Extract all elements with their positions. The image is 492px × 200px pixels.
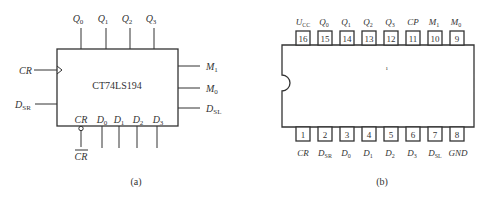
svg-text:CR: CR	[297, 148, 309, 158]
svg-text:13: 13	[365, 34, 375, 44]
svg-text:2: 2	[323, 130, 328, 140]
svg-text:DSR: DSR	[317, 148, 332, 159]
svg-text:CR: CR	[19, 65, 32, 76]
inversion-bubble-icon	[79, 126, 83, 130]
bottom-pin-1: 1 CR	[296, 127, 310, 158]
caption-b: (b)	[376, 176, 388, 188]
svg-text:Q1: Q1	[98, 13, 109, 26]
svg-text:CP: CP	[407, 17, 419, 27]
svg-text:D2: D2	[384, 148, 395, 159]
svg-text:12: 12	[387, 34, 396, 44]
right-pin-dsl: DSL	[178, 103, 221, 116]
bottom-pin-4: 4 D1	[362, 127, 376, 159]
svg-text:9: 9	[455, 34, 460, 44]
dip-package-body	[282, 45, 474, 127]
svg-text:Q3: Q3	[385, 17, 395, 28]
svg-text:UCC: UCC	[296, 17, 311, 28]
svg-text:DSR: DSR	[14, 99, 31, 112]
svg-text:11: 11	[409, 34, 418, 44]
bottom-pin-cr-inverted: CR	[75, 126, 88, 162]
bottom-pin-7: 7 DSL	[427, 127, 442, 159]
svg-text:DSL: DSL	[427, 148, 442, 159]
figure-a-logic-symbol: CT74LS194 Q0 Q1 Q2 Q3 CR DSR	[14, 13, 221, 188]
svg-text:Q3: Q3	[146, 13, 157, 26]
top-pin-12: 12 Q3	[384, 17, 398, 45]
top-pin-15: 15 Q0	[318, 17, 332, 45]
top-pin-q3: Q3	[146, 13, 157, 49]
svg-text:DSL: DSL	[205, 103, 221, 116]
top-pin-q2: Q2	[122, 13, 133, 49]
svg-text:4: 4	[367, 130, 372, 140]
svg-text:D0: D0	[340, 148, 351, 159]
svg-text:Q0: Q0	[319, 17, 329, 28]
svg-text:GND: GND	[448, 148, 468, 158]
top-pin-11: 11 CP	[406, 17, 420, 45]
svg-text:15: 15	[321, 34, 331, 44]
svg-text:Q2: Q2	[122, 13, 133, 26]
top-pin-10: 10 M1	[428, 17, 442, 45]
left-pin-cr-clock: CR	[19, 65, 62, 76]
bottom-pin-3: 3 D0	[340, 127, 354, 159]
bottom-pin-8: 8 GND	[448, 127, 468, 158]
svg-text:7: 7	[433, 130, 438, 140]
svg-text:M1: M1	[205, 61, 218, 74]
svg-text:3: 3	[345, 130, 350, 140]
svg-text:10: 10	[431, 34, 441, 44]
svg-text:1: 1	[301, 130, 306, 140]
top-pin-q1: Q1	[98, 13, 109, 49]
top-pin-16: 16 UCC	[296, 17, 311, 45]
top-pin-14: 14 Q1	[340, 17, 354, 45]
figure-b-pinout: ı 16 UCC 15 Q0 14 Q1 13 Q2 12 Q3	[282, 17, 474, 188]
top-pin-9: 9 M0	[450, 17, 464, 45]
svg-text:M1: M1	[428, 17, 440, 28]
bottom-pin-6: 6 D3	[406, 127, 420, 159]
svg-text:M0: M0	[450, 17, 462, 28]
svg-text:14: 14	[343, 34, 353, 44]
caption-a: (a)	[130, 176, 141, 188]
bottom-pin-2: 2 DSR	[317, 127, 332, 159]
svg-text:CR: CR	[75, 151, 88, 162]
svg-text:6: 6	[411, 130, 416, 140]
chip-label: CT74LS194	[92, 80, 141, 91]
left-pin-dsr: DSR	[14, 99, 57, 112]
right-pin-m1: M1	[178, 61, 218, 74]
diagram-canvas: CT74LS194 Q0 Q1 Q2 Q3 CR DSR	[0, 0, 492, 200]
svg-text:5: 5	[389, 130, 394, 140]
svg-text:Q0: Q0	[73, 13, 84, 26]
right-pin-m0: M0	[178, 83, 218, 96]
svg-text:Q1: Q1	[341, 17, 351, 28]
top-pin-13: 13 Q2	[362, 17, 376, 45]
bottom-pin-5: 5 D2	[384, 127, 398, 159]
svg-text:16: 16	[299, 34, 309, 44]
svg-text:Q2: Q2	[363, 17, 373, 28]
svg-text:M0: M0	[205, 83, 218, 96]
top-pin-q0: Q0	[73, 13, 84, 49]
svg-text:D1: D1	[362, 148, 373, 159]
svg-text:8: 8	[455, 130, 460, 140]
svg-text:D3: D3	[406, 148, 417, 159]
inside-label-cr: CR	[75, 114, 88, 125]
